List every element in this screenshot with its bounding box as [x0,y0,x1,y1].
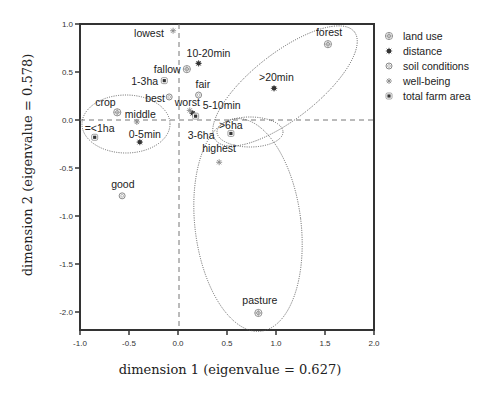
marker-land-use-icon [114,109,121,116]
x-tick-label: 2.0 [368,339,380,348]
x-tick-label: 0.0 [172,339,184,348]
x-tick-label: 1.5 [319,339,331,348]
y-tick-label: -1.0 [59,212,73,221]
point-label: 3-6ha [188,129,215,141]
x-tick-label: -0.5 [122,339,136,348]
point-label: highest [202,142,236,154]
legend-soil-conditions-icon [386,63,392,69]
point-label: 10-20min [187,47,231,59]
marker-total-farm-area-icon [193,113,199,119]
marker-total-farm-area-icon [161,78,167,84]
legend-label: land use [403,30,443,42]
legend-total-farm-area-icon [386,93,392,99]
point-label: fallow [154,63,181,75]
point-label: middle [125,108,156,120]
legend-land-use-icon [385,32,392,39]
marker-distance-icon [271,85,277,91]
point-label: 0-5min [129,128,161,140]
legend-item: distance [386,45,442,57]
point-label: good [111,178,135,190]
marker-land-use-icon [183,66,190,73]
point-label: 1-3ha [131,75,158,87]
point-label: >6ha [219,119,243,131]
legend-item: total farm area [386,90,471,102]
legend-label: soil conditions [403,60,469,72]
point-label: =<1ha [85,122,115,134]
point-label: crop [95,96,116,108]
marker-land-use-icon [255,309,262,316]
legend-well-being-icon [386,78,392,84]
point-label: >20min [259,71,294,83]
legend-item: well-being [386,75,450,87]
y-tick-label: 0.0 [62,116,74,125]
marker-total-farm-area-icon [92,134,98,140]
legend-item: soil conditions [386,60,469,72]
marker-land-use-icon [324,41,331,48]
y-axis-title: dimension 2 (eigenvalue = 0.578) [20,54,35,277]
marker-soil-conditions-icon [166,94,172,100]
legend-label: distance [403,45,442,57]
marker-soil-conditions-icon [119,193,125,199]
point-label: worst [174,96,200,108]
correspondence-analysis-chart: 1.00.50.0-0.5-1.0-1.5-2.0 -1.0-0.50.00.5… [0,0,480,395]
y-tick-label: 1.0 [62,20,74,29]
x-tick-label: -1.0 [73,339,87,348]
point-label: forest [316,26,342,38]
x-tick-label: 1.0 [270,339,282,348]
point-label: best [145,92,165,104]
x-tick-label: 0.5 [221,339,233,348]
x-axis-ticks: -1.0-0.50.00.51.01.52.0 [73,330,380,348]
point-label: lowest [134,27,164,39]
legend-distance-icon [386,48,392,54]
marker-well-being-icon [170,28,176,34]
legend-item: land use [385,30,442,42]
x-axis-title: dimension 1 (eigenvalue = 0.627) [119,362,342,377]
y-tick-label: -2.0 [59,308,73,317]
y-tick-label: 0.5 [62,68,74,77]
legend-label: well-being [402,75,450,87]
y-tick-label: -0.5 [59,164,73,173]
marker-well-being-icon [216,159,222,165]
point-label: fair [196,78,211,90]
data-points: cropfallowforestpasture10-20min5-10min0-… [85,26,343,316]
marker-distance-icon [195,60,201,66]
point-label: pasture [242,294,277,306]
legend-label: total farm area [403,90,471,102]
point-label: 5-10min [203,99,241,111]
legend: land usedistancesoil conditionswell-bein… [385,30,470,102]
y-axis-ticks: 1.00.50.0-0.5-1.0-1.5-2.0 [59,20,80,317]
y-tick-label: -1.5 [59,260,73,269]
